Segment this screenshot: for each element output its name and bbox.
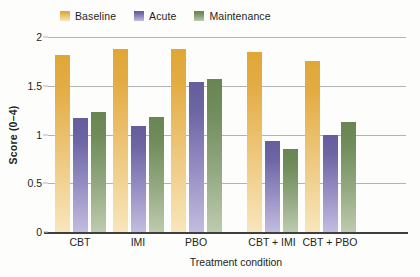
bar-baseline: [305, 61, 320, 232]
x-axis-tick-label: IMI: [131, 236, 146, 248]
bar-group: [168, 37, 224, 232]
acute-swatch-icon: [134, 11, 144, 21]
chart-legend: Baseline Acute Maintenance: [60, 8, 271, 24]
y-axis-tick-label: 0.5: [27, 177, 42, 189]
bar-group: [110, 37, 166, 232]
bar-baseline: [171, 49, 186, 232]
bar-baseline: [113, 49, 128, 232]
x-axis-title: Treatment condition: [0, 256, 420, 268]
y-axis-tick-label: 0: [36, 226, 42, 238]
y-axis-tick-label: 1: [36, 129, 42, 141]
bar-acute: [265, 141, 280, 232]
legend-item-acute: Acute: [134, 11, 176, 22]
bar-maintenance: [341, 122, 356, 232]
x-axis-title-text: Treatment condition: [190, 256, 282, 268]
bar-acute: [189, 82, 204, 232]
bar-acute: [73, 118, 88, 232]
legend-label-maintenance: Maintenance: [209, 11, 270, 22]
x-axis-tick-label: CBT: [70, 236, 91, 248]
bar-maintenance: [207, 79, 222, 232]
bar-chart: Baseline Acute Maintenance Score (0–4) 0…: [0, 0, 420, 277]
bar-maintenance: [91, 112, 106, 232]
bar-group: [52, 37, 108, 232]
maintenance-swatch-icon: [194, 11, 204, 21]
x-axis-tick-label: PBO: [185, 236, 207, 248]
bar-maintenance: [283, 149, 298, 232]
baseline-swatch-icon: [60, 11, 70, 21]
bar-baseline: [247, 52, 262, 232]
legend-label-acute: Acute: [149, 11, 176, 22]
y-axis-tick-label: 2: [36, 31, 42, 43]
legend-item-maintenance: Maintenance: [194, 11, 270, 22]
x-axis-tick-label: CBT + PBO: [303, 236, 358, 248]
bar-acute: [323, 135, 338, 233]
bar-groups: [48, 37, 406, 232]
bar-group: [302, 37, 358, 232]
x-axis-tick-label: CBT + IMI: [248, 236, 295, 248]
bar-group: [244, 37, 300, 232]
bar-baseline: [55, 55, 70, 232]
bar-acute: [131, 126, 146, 232]
legend-item-baseline: Baseline: [60, 11, 116, 22]
legend-label-baseline: Baseline: [75, 11, 116, 22]
y-axis-tick-label: 1.5: [27, 80, 42, 92]
plot-area: 00.511.52: [48, 37, 406, 232]
bar-maintenance: [149, 117, 164, 232]
x-axis-tick-labels: CBTIMIPBOCBT + IMICBT + PBO: [48, 236, 406, 250]
y-axis-title: Score (0–4): [6, 37, 20, 232]
y-axis-title-text: Score (0–4): [7, 105, 19, 164]
